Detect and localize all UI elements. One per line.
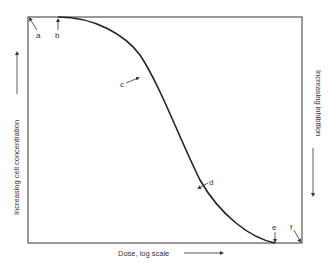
point-label-c: c (120, 80, 124, 89)
y-axis-right-label: Increasing inhibition (314, 70, 323, 136)
pointer-c-icon (126, 78, 138, 83)
point-label-b: b (55, 31, 60, 40)
point-label-e: e (272, 223, 277, 232)
plot-frame (28, 17, 302, 243)
point-label-d: d (209, 178, 213, 187)
dose-response-curve (58, 17, 275, 243)
x-axis-label: Dose, log scale (118, 249, 169, 258)
point-label-a: a (36, 31, 41, 40)
pointer-a-icon (30, 19, 37, 30)
y-axis-left-label: Increasing cell concentration (12, 120, 21, 215)
pointer-f-icon (294, 230, 300, 241)
point-label-f: f (290, 223, 293, 232)
dose-response-diagram: a b c d e f Dose, log scale Increasing c… (0, 0, 328, 265)
